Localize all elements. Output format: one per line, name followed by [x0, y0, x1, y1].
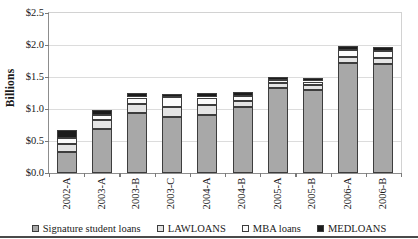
bar-segment: [127, 93, 147, 97]
bar-segment: [373, 58, 393, 64]
bar-segment: [127, 98, 147, 104]
legend-entry[interactable]: Signature student loans: [32, 223, 141, 234]
x-tick-label: 2006-B: [360, 174, 404, 218]
bar-segment: [338, 50, 358, 56]
bar-segment: [373, 64, 393, 173]
y-axis-tick-labels: $0.0$0.5$1.0$1.5$2.0$2.5: [16, 12, 46, 172]
y-tick-mark: [45, 77, 49, 78]
bar-segment: [303, 82, 323, 85]
legend-entry[interactable]: MEDLOANS: [317, 223, 386, 234]
bar-segment: [233, 107, 253, 173]
bar-group: [303, 13, 323, 173]
x-tick-label-text: 2003-B: [131, 178, 142, 210]
y-axis-title-label: Billions: [4, 68, 16, 107]
bar-group: [197, 13, 217, 173]
y-tick-label: $1.0: [26, 103, 44, 114]
bar-group: [338, 13, 358, 173]
bar-segment: [233, 101, 253, 107]
bar-segment: [197, 115, 217, 173]
y-tick-mark: [45, 13, 49, 14]
bar-segment: [197, 93, 217, 97]
plot-area: [48, 12, 402, 174]
bar-segment: [233, 92, 253, 96]
legend-label: MEDLOANS: [328, 223, 386, 234]
bar-segment: [92, 129, 112, 173]
y-tick-label: $1.5: [26, 71, 44, 82]
x-tick-label-text: 2005-B: [307, 178, 318, 210]
y-tick-label: $2.0: [26, 39, 44, 50]
bar-segment: [127, 113, 147, 173]
bar-segment: [268, 77, 288, 80]
y-tick-label: $2.5: [26, 7, 44, 18]
bar-segment: [162, 117, 182, 173]
x-tick-label-text: 2005-A: [271, 177, 282, 209]
legend-entry[interactable]: MBA loans: [242, 223, 301, 234]
bars-layer: [49, 13, 401, 173]
x-tick-label-text: 2004-B: [236, 178, 247, 210]
x-tick-label-text: 2006-A: [342, 177, 353, 209]
bar-group: [373, 13, 393, 173]
bar-segment: [338, 63, 358, 173]
x-tick-label-text: 2003-A: [95, 177, 106, 209]
bar-segment: [162, 107, 182, 117]
bar-segment: [92, 115, 112, 119]
bar-segment: [338, 46, 358, 50]
bar-segment: [197, 98, 217, 106]
bar-segment: [92, 110, 112, 116]
bar-segment: [57, 144, 77, 152]
x-axis-tick-labels: 2002-A2003-A2003-B2003-C2004-A2004-B2005…: [48, 174, 400, 218]
x-tick-label-text: 2006-B: [377, 178, 388, 210]
y-tick-mark: [45, 141, 49, 142]
bar-segment: [303, 85, 323, 90]
bar-segment: [373, 51, 393, 57]
legend-swatch-icon: [157, 225, 164, 232]
bar-group: [92, 13, 112, 173]
legend-swatch-icon: [32, 225, 39, 232]
legend-label: Signature student loans: [43, 223, 141, 234]
legend-entry[interactable]: LAWLOANS: [157, 223, 226, 234]
bar-segment: [268, 83, 288, 87]
y-tick-mark: [45, 109, 49, 110]
bar-group: [127, 13, 147, 173]
y-tick-label: $0.5: [26, 135, 44, 146]
y-tick-mark: [45, 45, 49, 46]
bottom-rule: [0, 236, 418, 238]
legend-label: LAWLOANS: [168, 223, 226, 234]
bar-segment: [233, 96, 253, 100]
bar-group: [162, 13, 182, 173]
bar-segment: [57, 152, 77, 173]
legend-swatch-icon: [242, 225, 249, 232]
bar-group: [57, 13, 77, 173]
bar-segment: [92, 120, 112, 130]
x-tick-label-text: 2003-C: [166, 178, 177, 210]
x-tick-label-text: 2004-A: [201, 177, 212, 209]
bar-group: [268, 13, 288, 173]
bar-segment: [303, 90, 323, 173]
bar-segment: [57, 138, 77, 144]
y-tick-label: $0.0: [26, 167, 44, 178]
bar-segment: [127, 104, 147, 114]
legend-swatch-icon: [317, 225, 324, 232]
bar-segment: [197, 105, 217, 115]
bar-segment: [303, 78, 323, 81]
bar-group: [233, 13, 253, 173]
bar-segment: [338, 57, 358, 63]
bar-segment: [57, 130, 77, 138]
x-tick-label-text: 2002-A: [60, 177, 71, 209]
bar-segment: [162, 94, 182, 97]
bar-segment: [268, 88, 288, 173]
bar-segment: [268, 80, 288, 83]
bar-segment: [373, 47, 393, 51]
stacked-bar-chart: Billions $0.0$0.5$1.0$1.5$2.0$2.5 2002-A…: [0, 0, 418, 239]
bar-segment: [162, 97, 182, 107]
legend-label: MBA loans: [253, 223, 301, 234]
